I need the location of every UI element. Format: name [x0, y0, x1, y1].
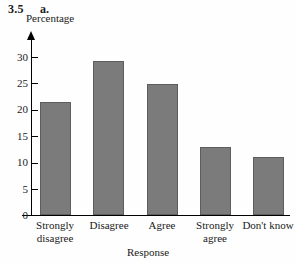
bar [40, 102, 71, 215]
y-tick-label: 20 [6, 104, 28, 115]
x-axis-line [22, 215, 290, 216]
y-tick-label: 15 [6, 131, 28, 142]
y-tick-mark [32, 215, 38, 216]
x-category-label-line2: disagree [24, 232, 86, 245]
y-tick-mark [32, 110, 38, 111]
y-tick-mark [32, 136, 38, 137]
x-category-label-line1: Don't know [235, 219, 296, 232]
x-category-label: Don't know [235, 219, 296, 232]
y-tick-mark [32, 57, 38, 58]
y-tick-mark [32, 83, 38, 84]
y-tick-label: 5 [6, 184, 28, 195]
x-category-label: Strongly disagree [24, 219, 86, 244]
y-tick-mark [32, 163, 38, 164]
bar [253, 157, 284, 215]
y-tick-label: 10 [6, 157, 28, 168]
bar [93, 61, 124, 215]
figure-container: 3.5 a. Percentage 30 25 20 15 10 5 0 Str… [0, 0, 296, 265]
x-category-label-line2: agree [184, 232, 246, 245]
y-tick-mark [32, 189, 38, 190]
x-axis-title: Response [0, 246, 296, 258]
y-tick-label: 25 [6, 78, 28, 89]
bar [200, 147, 231, 215]
bar [147, 84, 178, 215]
y-tick-label: 30 [6, 52, 28, 63]
x-category-label-line1: Strongly [24, 219, 86, 232]
plot-area: 30 25 20 15 10 5 0 Strongly disagree Dis… [0, 0, 296, 265]
